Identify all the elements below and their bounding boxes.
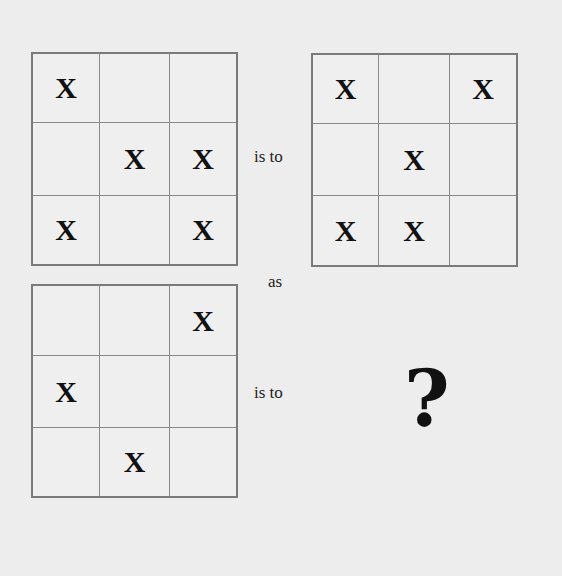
grid-a-cell-1-0 bbox=[33, 123, 100, 196]
grid-b-cell-0-2: X bbox=[450, 55, 516, 124]
grid-a-cell-0-0: X bbox=[33, 54, 100, 123]
grid-c-cell-2-0 bbox=[33, 428, 100, 496]
grid-b-cell-2-1: X bbox=[379, 196, 450, 265]
grid-a-cell-2-2: X bbox=[170, 196, 236, 264]
grid-a-cell-2-1 bbox=[100, 196, 170, 264]
grid-a-cell-2-0: X bbox=[33, 196, 100, 264]
grid-b-cell-1-0 bbox=[313, 124, 379, 196]
grid-c-cell-1-1 bbox=[100, 356, 170, 428]
grid-b: X X X X X bbox=[311, 53, 518, 267]
grid-c-cell-0-2: X bbox=[170, 286, 236, 356]
grid-b-cell-1-2 bbox=[450, 124, 516, 196]
grid-c: X X X bbox=[31, 284, 238, 498]
grid-a-cell-0-2 bbox=[170, 54, 236, 123]
grid-a: X X X X X bbox=[31, 52, 238, 266]
grid-b-cell-0-1 bbox=[379, 55, 450, 124]
grid-b-cell-2-0: X bbox=[313, 196, 379, 265]
grid-c-cell-0-0 bbox=[33, 286, 100, 356]
grid-c-cell-0-1 bbox=[100, 286, 170, 356]
grid-c-cell-2-1: X bbox=[100, 428, 170, 496]
is-to-label-bottom: is to bbox=[254, 383, 283, 403]
grid-c-cell-2-2 bbox=[170, 428, 236, 496]
as-label: as bbox=[268, 272, 282, 292]
grid-a-cell-0-1 bbox=[100, 54, 170, 123]
grid-a-cell-1-1: X bbox=[100, 123, 170, 196]
grid-a-cell-1-2: X bbox=[170, 123, 236, 196]
grid-c-cell-1-0: X bbox=[33, 356, 100, 428]
grid-c-cell-1-2 bbox=[170, 356, 236, 428]
is-to-label-top: is to bbox=[254, 147, 283, 167]
grid-b-cell-2-2 bbox=[450, 196, 516, 265]
grid-b-cell-0-0: X bbox=[313, 55, 379, 124]
question-mark-icon: ? bbox=[404, 360, 450, 438]
grid-b-cell-1-1: X bbox=[379, 124, 450, 196]
